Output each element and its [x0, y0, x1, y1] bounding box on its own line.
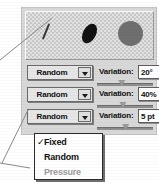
slider-track: [97, 83, 153, 86]
menu-item-label: Pressure: [44, 166, 81, 178]
small-ellipse-sample: [79, 21, 100, 46]
angle-variation-label: Variation:: [99, 66, 133, 78]
mode-popup-menu[interactable]: ✓ Fixed Random Pressure: [34, 133, 103, 180]
brush-options-panel: Random Variation: 20° Random Variation:: [21, 7, 157, 135]
roundness-mode-dropdown[interactable]: Random: [27, 87, 93, 102]
diameter-variation-field[interactable]: 5 pt: [138, 109, 159, 123]
brush-options-panel-figure: Random Variation: 20° Random Variation:: [0, 0, 159, 182]
menu-item-label: Random: [44, 151, 79, 163]
menu-item-pressure: Pressure: [35, 165, 102, 180]
slider-track: [97, 105, 153, 108]
roundness-variation-field[interactable]: 40%: [138, 87, 159, 101]
diameter-mode-label: Random: [28, 111, 76, 123]
roundness-variation-value: 40%: [141, 89, 156, 100]
angle-mode-dropdown[interactable]: Random: [27, 65, 93, 80]
roundness-variation-label: Variation:: [99, 88, 133, 100]
menu-item-random[interactable]: Random: [35, 150, 102, 165]
angle-variation-slider[interactable]: [97, 80, 153, 87]
roundness-mode-label: Random: [28, 89, 76, 101]
menu-item-fixed[interactable]: ✓ Fixed: [35, 135, 102, 150]
angle-mode-label: Random: [28, 67, 76, 79]
brush-preview: [25, 11, 154, 60]
angle-variation-field[interactable]: 20°: [138, 65, 159, 79]
diameter-mode-dropdown[interactable]: Random: [27, 109, 93, 124]
chevron-down-icon[interactable]: [78, 89, 91, 100]
menu-item-label: Fixed: [44, 136, 67, 148]
diameter-variation-value: 5 pt: [141, 111, 154, 122]
diameter-variation-label: Variation:: [99, 110, 133, 122]
large-circle-sample: [118, 21, 143, 46]
angle-variation-value: 20°: [141, 67, 153, 78]
chevron-down-icon[interactable]: [78, 111, 91, 122]
roundness-variation-slider[interactable]: [97, 102, 153, 109]
diameter-variation-slider[interactable]: [97, 124, 153, 131]
chevron-down-icon[interactable]: [78, 67, 91, 78]
thin-stroke-sample: [42, 23, 50, 40]
